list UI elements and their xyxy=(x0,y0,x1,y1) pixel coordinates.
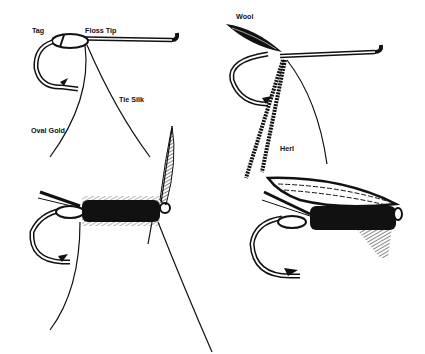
panel-step3 xyxy=(32,126,212,352)
label-tie-silk: Tie Silk xyxy=(119,95,144,104)
label-floss-tip: Floss Tip xyxy=(85,26,116,35)
label-tag: Tag xyxy=(32,26,44,35)
illustration xyxy=(0,0,425,354)
panel-step4 xyxy=(252,178,402,276)
label-wool: Wool xyxy=(236,12,253,21)
panel-step2 xyxy=(226,24,381,178)
label-herl: Herl xyxy=(280,144,294,153)
panel-step1 xyxy=(36,33,177,157)
fly-tying-diagram: Tag Floss Tip Tie Silk Oval Gold Wool He… xyxy=(0,0,425,354)
label-oval-gold: Oval Gold xyxy=(31,126,65,135)
